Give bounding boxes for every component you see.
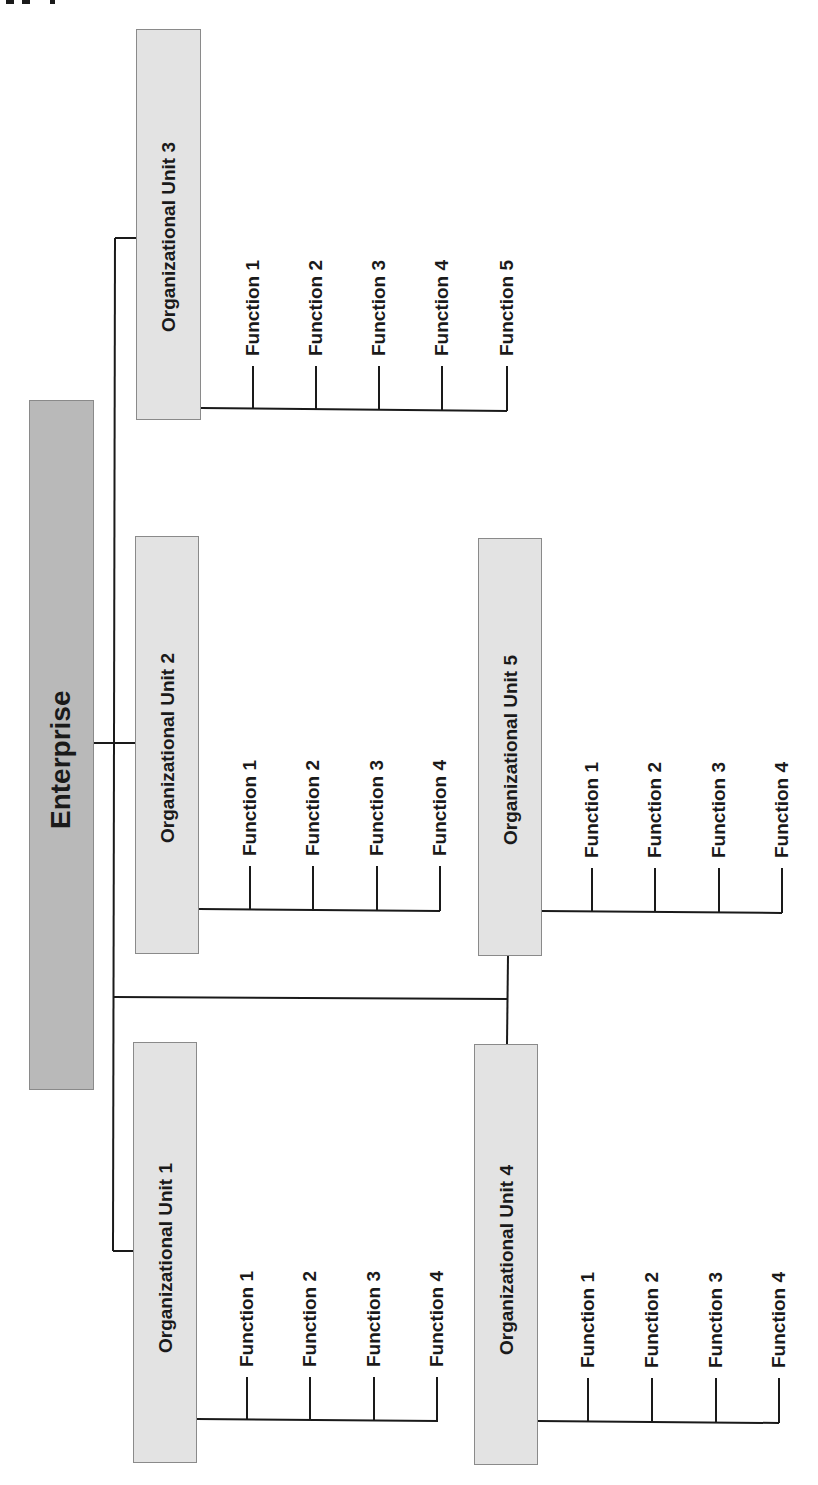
ou3-function-5[interactable]: Function 5 — [497, 260, 516, 356]
ou4-function-4[interactable]: Function 4 — [769, 1272, 788, 1368]
org-unit-5-box[interactable]: Organizational Unit 5 — [478, 538, 542, 956]
org-unit-3-label: Organizational Unit 3 — [159, 142, 178, 332]
ou3-function-3[interactable]: Function 3 — [369, 260, 388, 356]
enterprise-label: Enterprise — [47, 691, 75, 830]
trunk-to-ou5-ou4-line — [113, 997, 508, 999]
ou4-function-3[interactable]: Function 3 — [706, 1272, 725, 1368]
ou3-function-1[interactable]: Function 1 — [243, 260, 262, 356]
ou5-function-3[interactable]: Function 3 — [709, 762, 728, 858]
org-unit-2-box[interactable]: Organizational Unit 2 — [135, 536, 199, 954]
trunk-line — [113, 238, 115, 1251]
ou1-function-3[interactable]: Function 3 — [364, 1271, 383, 1367]
ou5-function-1[interactable]: Function 1 — [582, 762, 601, 858]
connector-lines — [0, 0, 818, 1485]
ou5-to-ou4-line — [507, 956, 508, 1044]
ou1-function-4[interactable]: Function 4 — [427, 1271, 446, 1367]
ou2-function-3[interactable]: Function 3 — [367, 760, 386, 856]
ou4-function-2[interactable]: Function 2 — [642, 1272, 661, 1368]
org-unit-3-box[interactable]: Organizational Unit 3 — [136, 29, 201, 420]
cropped-title-fragment — [22, 0, 30, 4]
ou2-function-1[interactable]: Function 1 — [240, 760, 259, 856]
org-unit-1-label: Organizational Unit 1 — [156, 1163, 175, 1353]
org-unit-2-label: Organizational Unit 2 — [158, 653, 177, 843]
ou1-function-1[interactable]: Function 1 — [237, 1271, 256, 1367]
cropped-title-fragment — [50, 0, 55, 4]
cropped-title-fragment — [6, 0, 14, 4]
ou4-function-1[interactable]: Function 1 — [578, 1272, 597, 1368]
ou2-function-2[interactable]: Function 2 — [303, 760, 322, 856]
org-unit-5-label: Organizational Unit 5 — [501, 655, 520, 845]
org-unit-1-box[interactable]: Organizational Unit 1 — [133, 1042, 197, 1463]
ou1-function-2[interactable]: Function 2 — [300, 1271, 319, 1367]
ou3-function-2[interactable]: Function 2 — [306, 260, 325, 356]
ou2-function-4[interactable]: Function 4 — [430, 760, 449, 856]
ou3-function-4[interactable]: Function 4 — [432, 260, 451, 356]
ou5-function-4[interactable]: Function 4 — [772, 762, 791, 858]
org-unit-4-label: Organizational Unit 4 — [497, 1165, 516, 1355]
ou5-function-2[interactable]: Function 2 — [645, 762, 664, 858]
enterprise-box[interactable]: Enterprise — [29, 400, 94, 1090]
org-unit-4-box[interactable]: Organizational Unit 4 — [474, 1044, 538, 1465]
